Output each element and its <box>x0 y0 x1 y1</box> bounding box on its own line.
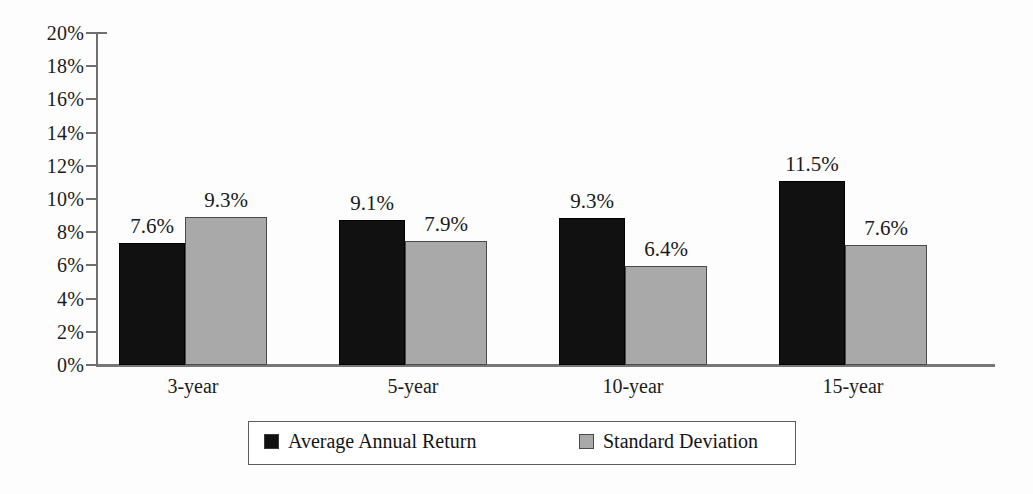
y-axis-tick <box>86 231 98 233</box>
y-axis-tick-label: 0% <box>0 355 84 375</box>
y-axis-tick <box>86 165 98 167</box>
bar-average-annual-return <box>559 218 625 365</box>
legend-item: Average Annual Return <box>264 431 476 451</box>
y-axis-tick-label-text: 14% <box>6 123 84 143</box>
y-axis-tick <box>86 198 98 200</box>
bar-average-annual-return <box>119 243 185 365</box>
y-axis-tick-label-text: 2% <box>6 322 84 342</box>
bar-value-label-standard-deviation: 9.3% <box>181 190 271 211</box>
y-axis-tick-label: 16% <box>0 89 84 109</box>
x-axis-category-label: 15-year <box>779 376 927 396</box>
bar-standard-deviation <box>405 241 487 365</box>
bar-value-label-standard-deviation: 7.6% <box>841 218 931 239</box>
y-axis-tick <box>86 364 98 366</box>
bar-group: 11.5%7.6% <box>779 33 927 365</box>
y-axis-tick-label-text: 12% <box>6 156 84 176</box>
legend-label: Standard Deviation <box>603 431 758 451</box>
legend-swatch-gray-icon <box>579 434 594 449</box>
y-axis-tick-label-text: 6% <box>6 255 84 275</box>
y-axis-tick-label: 10% <box>0 189 84 209</box>
x-axis-category-label: 5-year <box>339 376 487 396</box>
bar-group: 9.3%6.4% <box>559 33 707 365</box>
bar-value-label-average-annual-return: 9.3% <box>555 191 629 212</box>
y-axis-tick-label: 6% <box>0 255 84 275</box>
y-axis-tick <box>86 65 98 67</box>
y-axis-tick-label: 2% <box>0 322 84 342</box>
y-axis-tick-label: 14% <box>0 123 84 143</box>
y-axis-tick <box>86 32 107 34</box>
legend-label: Average Annual Return <box>288 431 476 451</box>
y-axis-tick <box>86 264 98 266</box>
x-axis-category-label: 3-year <box>119 376 267 396</box>
y-axis-tick-label-text: 20% <box>6 23 84 43</box>
bar-average-annual-return <box>339 220 405 365</box>
legend-swatch-black-icon <box>264 434 279 449</box>
y-axis-tick <box>86 331 98 333</box>
y-axis-tick-label-text: 4% <box>6 289 84 309</box>
y-axis-tick-label-text: 18% <box>6 56 84 76</box>
y-axis-tick-label: 12% <box>0 156 84 176</box>
y-axis-tick-label-text: 0% <box>6 355 84 375</box>
bar-value-label-average-annual-return: 11.5% <box>775 154 849 175</box>
chart-page: 20%18%16%14%12%10%8%6%4%2%0% 7.6%9.3%9.1… <box>0 0 1033 494</box>
bar-chart-plot-area: 20%18%16%14%12%10%8%6%4%2%0% 7.6%9.3%9.1… <box>0 0 1033 400</box>
bar-standard-deviation <box>185 217 267 365</box>
bar-value-label-average-annual-return: 7.6% <box>115 216 189 237</box>
chart-legend: Average Annual ReturnStandard Deviation <box>248 421 796 465</box>
y-axis-tick <box>86 98 98 100</box>
bar-group: 7.6%9.3% <box>119 33 267 365</box>
bar-value-label-average-annual-return: 9.1% <box>335 193 409 214</box>
bar-standard-deviation <box>625 266 707 365</box>
legend-item: Standard Deviation <box>579 431 758 451</box>
y-axis-tick-label-text: 10% <box>6 189 84 209</box>
bar-average-annual-return <box>779 181 845 365</box>
y-axis-tick <box>86 132 98 134</box>
y-axis-tick-label: 8% <box>0 222 84 242</box>
y-axis-tick-label: 4% <box>0 289 84 309</box>
bar-value-label-standard-deviation: 7.9% <box>401 214 491 235</box>
y-axis-tick-label-text: 16% <box>6 89 84 109</box>
y-axis-tick-label-text: 8% <box>6 222 84 242</box>
y-axis-tick <box>86 298 98 300</box>
y-axis-tick-label: 18% <box>0 56 84 76</box>
bar-standard-deviation <box>845 245 927 365</box>
bar-group: 9.1%7.9% <box>339 33 487 365</box>
y-axis-tick-label: 20% <box>0 23 84 43</box>
x-axis-category-label: 10-year <box>559 376 707 396</box>
bar-value-label-standard-deviation: 6.4% <box>621 239 711 260</box>
